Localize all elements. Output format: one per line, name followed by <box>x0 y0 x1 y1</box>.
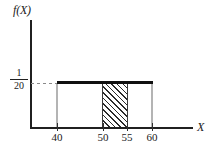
y-axis-label: f(X) <box>13 3 31 18</box>
fraction-denominator: 20 <box>9 81 29 91</box>
x-axis-tick-40 <box>57 123 58 131</box>
uniform-density-line <box>57 81 153 84</box>
x-axis-tick-label-40: 40 <box>46 131 68 143</box>
x-axis-tick-55 <box>127 123 128 131</box>
x-axis-tick-label-60: 60 <box>141 131 163 143</box>
x-axis-tick-50 <box>103 123 104 131</box>
uniform-distribution-figure: f(X) 1 20 40505560 X <box>0 0 217 153</box>
x-axis-tick-label-55: 55 <box>116 131 138 143</box>
drop-line-40 <box>56 84 58 127</box>
drop-line-60 <box>151 84 153 127</box>
x-axis-line <box>30 127 193 129</box>
x-axis-tick-60 <box>152 123 153 131</box>
y-axis-value-label: 1 20 <box>9 68 29 91</box>
shaded-probability-region <box>102 84 128 127</box>
x-axis-tick-label-50: 50 <box>92 131 114 143</box>
fraction-numerator: 1 <box>9 68 29 78</box>
density-guide-dashed-line <box>31 83 57 84</box>
y-axis-line <box>30 20 32 129</box>
x-axis-label: X <box>197 120 204 135</box>
